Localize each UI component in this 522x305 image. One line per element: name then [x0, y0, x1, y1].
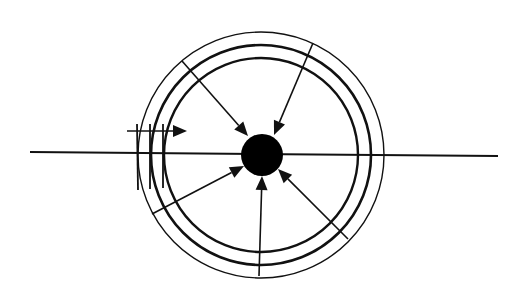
arrowhead-icon [173, 125, 187, 137]
arrow-upper-left [182, 61, 248, 136]
tick-mark [137, 124, 138, 190]
side-arrow [127, 125, 187, 137]
arrowhead-icon [256, 176, 268, 190]
concentric-rings-diagram [0, 0, 522, 305]
arrow-bottom [256, 176, 268, 276]
side-arrow-group [127, 125, 187, 137]
arrow-lower-right [278, 169, 348, 239]
arrow-upper-right [274, 43, 313, 135]
central-core-dot [241, 134, 283, 176]
